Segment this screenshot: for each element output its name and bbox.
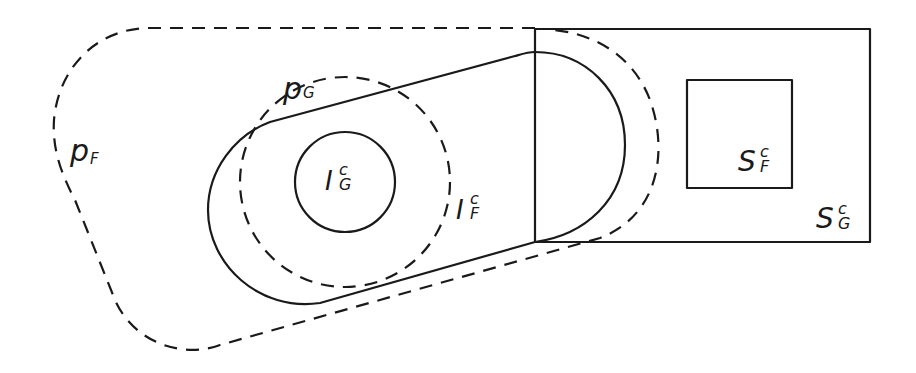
label-IGc: I c G	[325, 168, 333, 194]
label-SFc-scripts: c F	[760, 144, 769, 174]
label-pF-sub: F	[90, 152, 99, 167]
label-IFc-scripts: c F	[470, 191, 479, 221]
label-SFc-main: S	[738, 145, 756, 178]
label-pG: pG	[283, 74, 302, 104]
label-SFc-sub: F	[760, 159, 769, 174]
label-SGc-scripts: c G	[838, 201, 850, 231]
label-IGc-main: I	[325, 166, 333, 196]
label-pG-main: p	[283, 71, 302, 106]
region-IFc-boundary	[208, 52, 625, 304]
region-pF-boundary	[54, 28, 659, 350]
label-SFc: S c F	[738, 148, 756, 176]
label-IFc: I c F	[456, 197, 464, 223]
label-IFc-sub: F	[470, 206, 479, 221]
label-SGc-main: S	[816, 202, 834, 235]
label-SGc: S c G	[816, 205, 834, 233]
label-pF: pF	[70, 136, 89, 166]
diagram-canvas	[0, 0, 916, 373]
label-pG-sub: G	[303, 86, 315, 101]
label-pF-main: p	[70, 133, 89, 168]
label-IGc-scripts: c G	[339, 162, 351, 192]
label-IFc-main: I	[456, 195, 464, 225]
label-IGc-sub: G	[339, 177, 351, 192]
label-SGc-sub: G	[838, 216, 850, 231]
